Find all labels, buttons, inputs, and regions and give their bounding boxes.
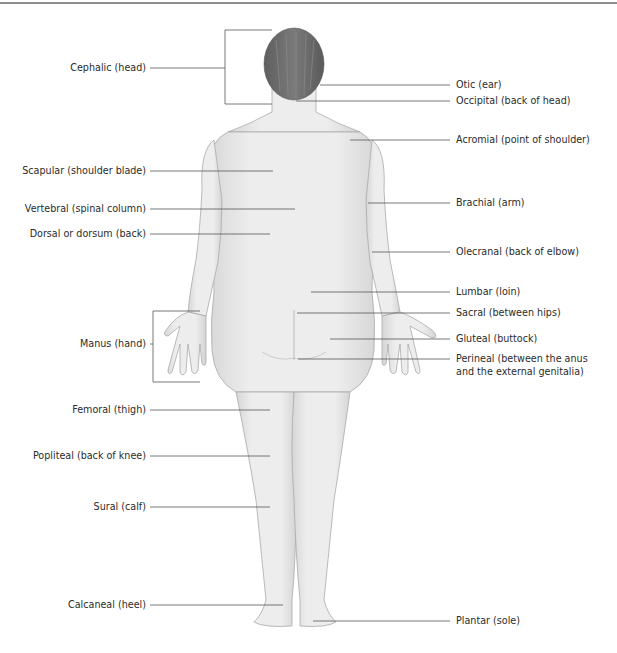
label-calcaneal: Calcaneal (heel) — [68, 599, 146, 611]
head — [264, 28, 324, 100]
label-cephalic: Cephalic (head) — [70, 62, 146, 74]
label-femoral: Femoral (thigh) — [72, 404, 146, 416]
label-popliteal: Popliteal (back of knee) — [33, 450, 146, 462]
label-gluteal: Gluteal (buttock) — [456, 333, 537, 345]
label-dorsal: Dorsal or dorsum (back) — [30, 228, 146, 240]
label-occipital: Occipital (back of head) — [456, 95, 570, 107]
label-vertebral: Vertebral (spinal column) — [25, 203, 146, 215]
label-plantar: Plantar (sole) — [456, 615, 520, 627]
label-manus: Manus (hand) — [80, 338, 146, 350]
label-scapular: Scapular (shoulder blade) — [22, 165, 146, 177]
label-lumbar: Lumbar (loin) — [456, 286, 520, 298]
label-sural: Sural (calf) — [94, 501, 146, 513]
body-silhouette — [164, 88, 436, 627]
label-brachial: Brachial (arm) — [456, 197, 525, 209]
label-sacral: Sacral (between hips) — [456, 307, 561, 319]
label-acromial: Acromial (point of shoulder) — [456, 134, 590, 146]
label-otic: Otic (ear) — [456, 79, 502, 91]
label-perineal-line2: and the external genitalia) — [456, 366, 584, 378]
label-perineal-line1: Perineal (between the anus — [456, 353, 588, 365]
label-olecranal: Olecranal (back of elbow) — [456, 246, 579, 258]
